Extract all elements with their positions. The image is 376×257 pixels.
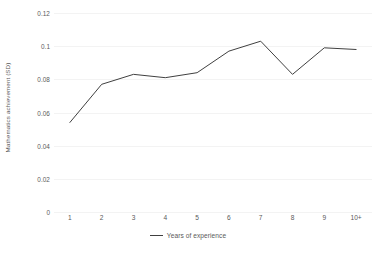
y-axis-tick-label: 0.1 <box>41 43 50 50</box>
x-axis-tick-label: 7 <box>259 214 263 221</box>
x-axis-tick-label: 5 <box>195 214 199 221</box>
line-chart: Mathematics achievement (SD) 0.120.10.08… <box>0 0 376 257</box>
gridline <box>54 212 372 213</box>
y-axis-tick-label: 0.12 <box>37 10 50 17</box>
y-axis-title: Mathematics achievement (SD) <box>1 0 15 215</box>
x-axis-tick-label: 9 <box>322 214 326 221</box>
y-axis-tick-labels: 0.120.10.080.060.040.020 <box>16 0 50 220</box>
y-axis-tick-label: 0.02 <box>37 175 50 182</box>
clipped-caption-text <box>18 250 358 257</box>
x-axis-tick-label: 6 <box>227 214 231 221</box>
x-axis-tick-label: 2 <box>100 214 104 221</box>
y-axis-tick-label: 0.06 <box>37 109 50 116</box>
series-line-years-of-experience <box>54 13 372 212</box>
y-axis-tick-label: 0.04 <box>37 142 50 149</box>
x-axis-tick-label: 1 <box>68 214 72 221</box>
plot-area <box>54 13 372 212</box>
legend-line-swatch-icon <box>150 235 163 236</box>
x-axis-tick-label: 8 <box>291 214 295 221</box>
chart-legend: Years of experience <box>0 232 376 239</box>
x-axis-tick-labels: 12345678910+ <box>54 214 372 228</box>
x-axis-tick-label: 3 <box>132 214 136 221</box>
y-axis-tick-label: 0 <box>46 209 50 216</box>
y-axis-title-label: Mathematics achievement (SD) <box>5 63 12 153</box>
y-axis-tick-label: 0.08 <box>37 76 50 83</box>
x-axis-tick-label: 4 <box>163 214 167 221</box>
x-axis-tick-label: 10+ <box>351 214 362 221</box>
legend-entry-label: Years of experience <box>167 232 226 239</box>
